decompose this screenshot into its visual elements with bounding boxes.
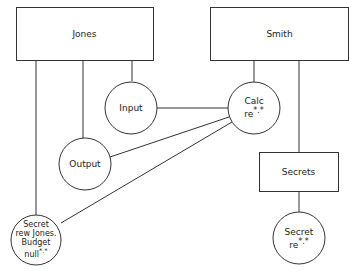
secret-right-re: re — [289, 240, 298, 250]
input-label: Input — [105, 103, 157, 113]
calc-title: Calc — [228, 96, 280, 106]
secret-right-subline: re*.* — [273, 237, 325, 250]
secret-left-line4: null*.* — [11, 247, 61, 259]
secret-right-marks: *.* — [298, 237, 309, 246]
smith-label: Smith — [210, 29, 349, 39]
calc-node-label: Calc re*.* — [228, 96, 280, 119]
calc-subline: re*.* — [228, 106, 280, 119]
output-label: Output — [59, 159, 111, 169]
secret-left-label: Secret rew Jones. Budget null*.* — [11, 220, 61, 259]
calc-marks: *.* — [253, 106, 264, 115]
secret-left-line1: Secret — [11, 220, 61, 229]
jones-label: Jones — [16, 29, 153, 39]
secret-right-label: Secret re*.* — [273, 227, 325, 250]
secrets-label: Secrets — [259, 167, 338, 177]
secret-left-marks: *.* — [39, 247, 48, 255]
secret-left-line2: rew Jones. — [11, 229, 61, 238]
secret-left-null: null — [24, 250, 39, 259]
secret-right-title: Secret — [273, 227, 325, 237]
calc-re: re — [244, 109, 253, 119]
secret-left-line3: Budget — [11, 238, 61, 247]
